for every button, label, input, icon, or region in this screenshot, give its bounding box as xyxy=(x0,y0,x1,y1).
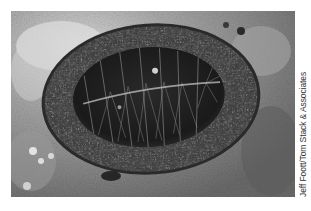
chiton-illustration xyxy=(11,11,295,197)
photo-credit: Jeff Foott/Tom Stack & Associates xyxy=(297,72,309,197)
chiton-photo xyxy=(11,11,295,197)
